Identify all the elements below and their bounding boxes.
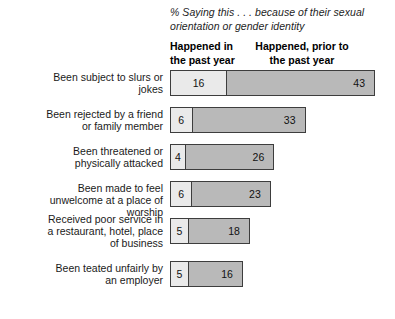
- column-header-line-1: Happened in: [170, 40, 255, 54]
- bar-value-past-year: 16: [192, 78, 206, 89]
- bar-value-past-year: 6: [177, 115, 185, 126]
- column-header-line-2: the past year: [252, 54, 352, 68]
- row-label-line: or family member: [13, 120, 163, 132]
- chart-rows: Been subject to slurs orjokes1643Been re…: [0, 70, 395, 298]
- row-label-line: physically attacked: [13, 157, 163, 169]
- row-label-line: Received poor service in: [13, 213, 163, 225]
- chart-row: Been rejected by a friendor family membe…: [0, 107, 395, 144]
- row-label: Been subject to slurs orjokes: [13, 71, 163, 95]
- row-label-line: Been subject to slurs or: [13, 71, 163, 83]
- bar-segment-past-year: 4: [171, 145, 185, 169]
- stacked-bar: 1643: [170, 70, 375, 96]
- column-header-line-1: Happened, prior to: [252, 40, 352, 54]
- chart-row: Been teated unfairly byan employer516: [0, 261, 395, 298]
- chart-row: Received poor service ina restaurant, ho…: [0, 218, 395, 261]
- row-label-line: of business: [13, 237, 163, 249]
- row-label: Been threatened orphysically attacked: [13, 145, 163, 169]
- chart-row: Been subject to slurs orjokes1643: [0, 70, 395, 107]
- bar-value-prior-year: 26: [253, 152, 274, 163]
- chart-subtitle: % Saying this . . . because of their sex…: [170, 6, 392, 33]
- row-label: Been rejected by a friendor family membe…: [13, 108, 163, 132]
- bar-segment-past-year: 5: [171, 219, 188, 243]
- column-header-line-2: the past year: [170, 54, 255, 68]
- bar-segment-past-year: 6: [171, 108, 192, 132]
- stacked-bar: 518: [170, 218, 250, 244]
- stacked-bar: 633: [170, 107, 306, 133]
- bar-segment-prior-year: 16: [188, 262, 242, 286]
- bar-segment-prior-year: 26: [185, 145, 274, 169]
- stacked-bar-chart: % Saying this . . . because of their sex…: [0, 0, 395, 319]
- bar-value-prior-year: 16: [221, 269, 242, 280]
- bar-value-past-year: 5: [176, 226, 184, 237]
- row-label-line: jokes: [13, 83, 163, 95]
- bar-segment-past-year: 6: [171, 182, 191, 206]
- row-label-line: Been rejected by a friend: [13, 108, 163, 120]
- bar-value-past-year: 6: [177, 189, 185, 200]
- column-header-happened-past-year: Happened in the past year: [170, 40, 255, 67]
- bar-segment-past-year: 16: [171, 71, 226, 95]
- stacked-bar: 516: [170, 261, 243, 287]
- bar-value-past-year: 5: [176, 269, 184, 280]
- bar-value-prior-year: 33: [284, 115, 305, 126]
- bar-value-past-year: 4: [174, 152, 182, 163]
- stacked-bar: 426: [170, 144, 274, 170]
- column-header-happened-prior: Happened, prior to the past year: [252, 40, 352, 67]
- chart-row: Been threatened orphysically attacked426: [0, 144, 395, 181]
- bar-segment-past-year: 5: [171, 262, 188, 286]
- bar-segment-prior-year: 23: [191, 182, 269, 206]
- row-label-line: Been threatened or: [13, 145, 163, 157]
- row-label-line: Been teated unfairly by: [13, 262, 163, 274]
- row-label-line: Been made to feel: [13, 182, 163, 194]
- row-label-line: a restaurant, hotel, place: [13, 225, 163, 237]
- row-label: Received poor service ina restaurant, ho…: [13, 213, 163, 250]
- row-label-line: an employer: [13, 274, 163, 286]
- bar-value-prior-year: 43: [353, 78, 374, 89]
- bar-value-prior-year: 23: [249, 189, 270, 200]
- bar-value-prior-year: 18: [228, 226, 249, 237]
- stacked-bar: 623: [170, 181, 271, 207]
- bar-segment-prior-year: 18: [188, 219, 249, 243]
- row-label: Been teated unfairly byan employer: [13, 262, 163, 286]
- bar-segment-prior-year: 33: [192, 108, 305, 132]
- bar-segment-prior-year: 43: [226, 71, 374, 95]
